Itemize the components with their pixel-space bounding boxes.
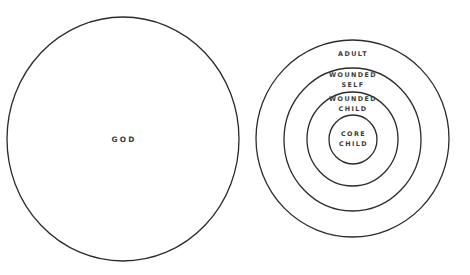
adult-label: ADULT (338, 50, 368, 58)
self-rings-group: ADULT WOUNDED SELF WOUNDED CHILD CORE CH… (256, 40, 449, 237)
adult-ring (256, 40, 449, 237)
diagram-canvas: GOD ADULT WOUNDED SELF WOUNDED CHILD COR… (0, 0, 470, 275)
god-circle-group: GOD (7, 17, 239, 261)
god-label: GOD (111, 135, 136, 144)
core-child-label-line1: CORE (341, 130, 366, 138)
wounded-self-label-line2: SELF (341, 81, 364, 89)
wounded-child-label-line1: WOUNDED (329, 95, 377, 103)
core-child-label-line2: CHILD (339, 140, 368, 148)
wounded-self-label-line1: WOUNDED (329, 71, 377, 79)
wounded-child-label-line2: CHILD (339, 105, 368, 113)
